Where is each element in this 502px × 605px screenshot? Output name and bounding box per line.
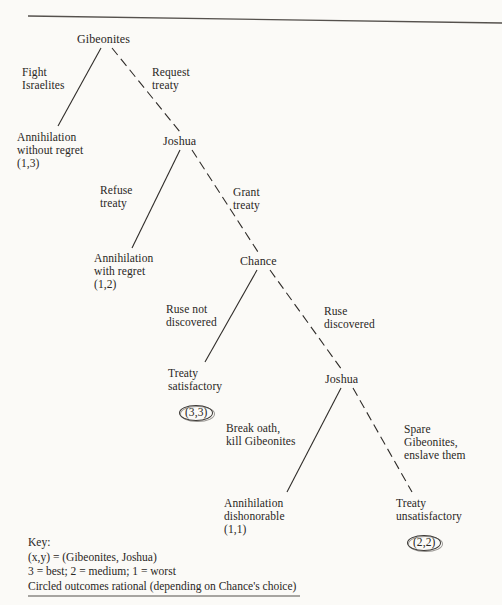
node-gibeonites: Gibeonites — [77, 33, 130, 46]
top-rule — [28, 16, 502, 23]
key-line-ranking: 3 = best; 2 = medium; 1 = worst — [28, 564, 296, 579]
outcome-treaty-unsatisfactory-label: Treaty unsatisfactory — [396, 497, 462, 523]
outcome-annihilation-without-regret-label: Annihilation without regret — [17, 131, 83, 157]
circled-payoff-treaty-unsatisfactory: (2,2) — [410, 536, 439, 549]
edge-label-ruse-not-discovered: Ruse not discovered — [166, 303, 217, 329]
outcome-annihilation-with-regret-payoff: (1,2) — [94, 278, 117, 291]
key-line-circled: Circled outcomes rational (depending on … — [28, 579, 296, 594]
outcome-treaty-unsatisfactory-payoff: (2,2) — [413, 536, 436, 548]
circled-payoff-treaty-satisfactory: (3,3) — [182, 406, 211, 419]
outcome-treaty-satisfactory-label: Treaty satisfactory — [168, 367, 222, 393]
edge-label-request-treaty: Request treaty — [152, 66, 190, 92]
key-heading: Key: — [28, 535, 296, 550]
outcome-annihilation-without-regret-payoff: (1,3) — [17, 157, 40, 170]
edge-label-ruse-discovered: Ruse discovered — [324, 305, 375, 331]
node-joshua-1: Joshua — [163, 135, 196, 148]
outcome-treaty-satisfactory-payoff: (3,3) — [185, 406, 208, 418]
edge-label-grant-treaty: Grant treaty — [233, 186, 260, 212]
edge-label-break-oath: Break oath, kill Gibeonites — [226, 422, 296, 448]
edge-label-refuse-treaty: Refuse treaty — [100, 184, 133, 210]
edge-refuse-treaty — [132, 150, 180, 248]
edge-label-fight-israelites: Fight Israelites — [22, 66, 65, 92]
node-chance: Chance — [240, 255, 277, 268]
outcome-annihilation-dishonorable-label: Annihilation dishonorable — [224, 497, 285, 523]
node-joshua-2: Joshua — [325, 373, 358, 386]
game-tree-figure: Gibeonites Joshua Chance Joshua Fight Is… — [0, 0, 502, 605]
edge-label-spare-gibeonites: Spare Gibeonites, enslave them — [404, 423, 466, 463]
key-line-players: (x,y) = (Gibeonites, Joshua) — [28, 550, 296, 565]
key-block: Key: (x,y) = (Gibeonites, Joshua) 3 = be… — [28, 535, 296, 593]
outcome-treaty-satisfactory-payoff-wrap: (3,3) — [170, 393, 210, 433]
outcome-treaty-unsatisfactory-payoff-wrap: (2,2) — [398, 523, 438, 563]
outcome-annihilation-with-regret-label: Annihilation with regret — [94, 252, 153, 278]
